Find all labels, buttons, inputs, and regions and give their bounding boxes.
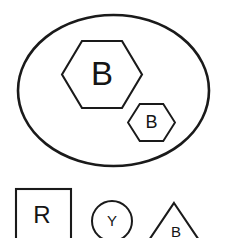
red-square-label: R xyxy=(33,201,50,228)
shape-diagram-canvas: B B R Y B xyxy=(0,0,225,238)
large-hexagon-label: B xyxy=(91,55,113,92)
small-hexagon-label: B xyxy=(145,112,157,132)
diagram-svg: B B R Y B xyxy=(0,0,225,238)
yellow-circle-label: Y xyxy=(107,212,117,229)
blue-triangle-label: B xyxy=(171,223,181,238)
